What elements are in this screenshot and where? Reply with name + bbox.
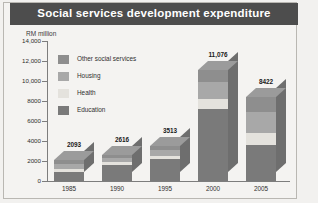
y-axis-label-wrap: 8000	[12, 97, 41, 105]
bar-group	[246, 97, 276, 181]
y-axis-tick	[42, 161, 48, 162]
bar-value-label: 3513	[140, 127, 200, 134]
legend-swatch-icon	[58, 55, 69, 64]
bar-group	[198, 70, 228, 181]
y-axis-label-wrap: 10,000	[12, 77, 41, 85]
page-title: Social services development expenditure	[10, 7, 298, 19]
y-axis-tick-label: 10,000	[15, 77, 41, 84]
y-axis-label-wrap: 12,000	[12, 57, 41, 65]
bar-side-face	[228, 52, 238, 172]
bar-segment	[246, 112, 276, 133]
plot-area: RM million 14,00012,00010,00080006000400…	[12, 28, 292, 198]
bar-segment	[246, 97, 276, 113]
legend-swatch-icon	[58, 72, 69, 81]
bar-segment	[102, 165, 132, 181]
y-axis-tick	[42, 181, 48, 182]
legend-item-label: Health	[77, 89, 95, 96]
legend-swatch-icon	[58, 106, 69, 115]
bar-front-face	[246, 97, 276, 181]
chart-page: Social services development expenditure …	[0, 0, 318, 203]
bar-value-label: 11,076	[188, 51, 248, 58]
y-axis-label-wrap: 4000	[12, 137, 41, 145]
bar-segment	[246, 133, 276, 145]
bar-segment	[198, 99, 228, 109]
y-axis-tick-label: 12,000	[15, 57, 41, 64]
y-axis-line	[47, 41, 48, 181]
y-axis-tick-label: 2000	[15, 157, 41, 164]
y-axis-tick-label: 14,000	[15, 37, 41, 44]
bar-segment	[198, 82, 228, 99]
y-axis-tick	[42, 81, 48, 82]
bar-front-face	[198, 70, 228, 181]
legend-item-label: Education	[77, 106, 105, 113]
bar-front-face	[102, 155, 132, 181]
bar-segment	[150, 159, 180, 181]
y-axis-label-wrap: 6000	[12, 117, 41, 125]
y-axis-tick	[42, 41, 48, 42]
bar-front-face	[54, 160, 84, 181]
bar-group	[102, 155, 132, 181]
y-axis-label-wrap: 0	[12, 177, 41, 185]
y-axis-tick-label: 0	[15, 177, 41, 184]
legend-item-label: Other social services	[77, 55, 136, 62]
y-axis-tick-label: 4000	[15, 137, 41, 144]
bar-segment	[198, 70, 228, 82]
x-axis-line	[47, 181, 290, 182]
y-axis-tick	[42, 121, 48, 122]
bar-value-label: 8422	[236, 78, 296, 85]
bar-group	[150, 146, 180, 181]
bar-segment	[246, 145, 276, 181]
bar-front-face	[150, 146, 180, 181]
x-axis-tick-label: 1985	[49, 185, 89, 192]
x-axis-tick-label: 1990	[97, 185, 137, 192]
y-axis-unit-label: RM million	[26, 30, 56, 37]
legend-swatch-icon	[58, 89, 69, 98]
bar-group	[54, 160, 84, 181]
bar-side-face	[180, 128, 190, 172]
bar-segment	[198, 109, 228, 181]
source-note: Source: various Economic Reports	[312, 0, 318, 78]
y-axis-label-wrap: 14,000	[12, 37, 41, 45]
x-axis-tick-label: 1995	[145, 185, 185, 192]
y-axis-tick-label: 8000	[15, 97, 41, 104]
x-axis-tick-label: 2000	[193, 185, 233, 192]
y-axis-tick	[42, 101, 48, 102]
y-axis-label-wrap: 2000	[12, 157, 41, 165]
legend-item-label: Housing	[77, 72, 100, 79]
bar-segment	[54, 172, 84, 181]
x-axis-tick-label: 2005	[241, 185, 281, 192]
bar-value-label: 2616	[92, 136, 152, 143]
y-axis-tick-label: 6000	[15, 117, 41, 124]
title-banner: Social services development expenditure	[10, 3, 298, 25]
y-axis-tick	[42, 61, 48, 62]
